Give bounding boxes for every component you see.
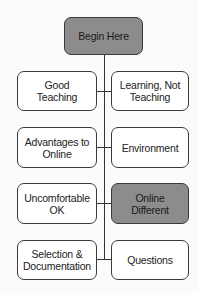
node-advantages-to-online: Advantages to Online [17,127,97,168]
node-label: Learning, Not Teaching [120,79,180,103]
node-label: Questions [127,254,172,266]
connector-row-2 [97,147,111,148]
node-environment: Environment [111,127,189,168]
connector-row-3 [97,203,111,204]
node-learning-not-teaching: Learning, Not Teaching [111,71,189,111]
trunk-line [104,55,105,259]
node-label: Uncomfortable OK [24,192,90,216]
node-uncomfortable-ok: Uncomfortable OK [17,183,97,224]
node-questions: Questions [111,240,189,280]
node-label: Good Teaching [37,79,77,103]
node-online-different: Online Different [111,183,189,224]
node-begin-here: Begin Here [64,17,143,55]
node-selection-documentation: Selection & Documentation [17,240,97,280]
connector-row-4 [97,259,111,260]
node-label: Online Different [131,192,169,216]
node-label: Advantages to Online [25,136,90,160]
node-label: Begin Here [78,30,129,42]
connector-row-1 [97,91,111,92]
node-label: Environment [122,142,179,154]
node-good-teaching: Good Teaching [17,71,97,111]
node-label: Selection & Documentation [23,248,91,272]
